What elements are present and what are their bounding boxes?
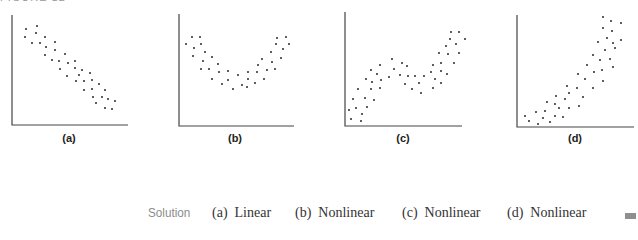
data-point [609,58,611,60]
data-point [361,113,363,115]
data-point [39,42,41,44]
data-point [274,68,276,70]
data-point [241,84,243,86]
data-point [54,49,56,51]
data-point [91,88,93,90]
answer-c: (c) Nonlinear [402,205,481,221]
data-point [266,69,268,71]
data-point [192,55,194,57]
data-point [542,117,544,119]
data-point [611,30,613,32]
data-point [584,78,586,80]
data-point [458,52,460,54]
scatter-plots [0,0,638,240]
data-point [388,76,390,78]
data-point [614,47,616,49]
solution-heading: Solution [148,205,190,220]
data-point [246,86,248,88]
data-point [114,100,116,102]
data-point [275,43,277,45]
data-point [89,72,91,74]
data-point [393,68,395,70]
data-point [254,82,256,84]
data-point [200,68,202,70]
data-point [411,88,413,90]
panel-label-a: (a) [49,132,89,144]
data-point [568,107,570,109]
data-point [208,68,210,70]
data-point [379,64,381,66]
data-point [227,70,229,72]
data-point [373,99,375,101]
data-point [418,82,420,84]
data-point [577,73,579,75]
data-point [366,106,368,108]
data-point [537,123,539,125]
data-point [101,96,103,98]
data-point [568,92,570,94]
data-point [111,108,113,110]
data-point [35,32,37,34]
answer-a: (a) Linear [212,205,271,221]
data-point [237,74,239,76]
data-point [438,52,440,54]
data-point [74,60,76,62]
data-point [606,37,608,39]
data-point [423,75,425,77]
data-point [604,49,606,51]
data-point [450,31,452,33]
data-point [95,102,97,104]
data-point [592,87,594,89]
data-point [263,78,265,80]
data-point [546,101,548,103]
data-point [44,36,46,38]
axes [12,15,128,125]
data-point [64,53,66,55]
data-point [91,79,93,81]
data-point [218,71,220,73]
data-point [455,43,457,45]
data-point [232,88,234,90]
data-point [227,79,229,81]
data-point [440,70,442,72]
data-point [199,36,201,38]
data-point [578,105,580,107]
end-of-solution-icon [625,213,636,219]
data-point [576,87,578,89]
data-point [66,75,68,77]
data-point [74,67,76,69]
solution-row: Solution (a) Linear (b) Nonlinear (c) No… [0,205,638,225]
data-point [285,36,287,38]
data-point [348,109,350,111]
data-point [446,73,448,75]
data-point [370,88,372,90]
data-point [404,83,406,85]
data-point [193,47,195,49]
data-point [204,51,206,53]
data-point [440,82,442,84]
data-point [221,83,223,85]
data-point [364,97,366,99]
axes [345,12,462,126]
data-point [44,54,46,56]
panel-label-c: (c) [383,132,423,144]
data-point [217,63,219,65]
data-point [440,62,442,64]
data-point [601,69,603,71]
data-point [524,115,526,117]
data-point [98,83,100,85]
data-point [599,59,601,61]
data-point [104,107,106,109]
data-point [620,39,622,41]
data-point [360,120,362,122]
data-point [449,38,451,40]
data-point [432,64,434,66]
data-point [597,41,599,43]
data-point [36,25,38,27]
data-point [380,79,382,81]
data-point [75,80,77,82]
data-point [414,75,416,77]
data-point [434,78,436,80]
data-point [447,53,449,55]
data-point [25,28,27,30]
